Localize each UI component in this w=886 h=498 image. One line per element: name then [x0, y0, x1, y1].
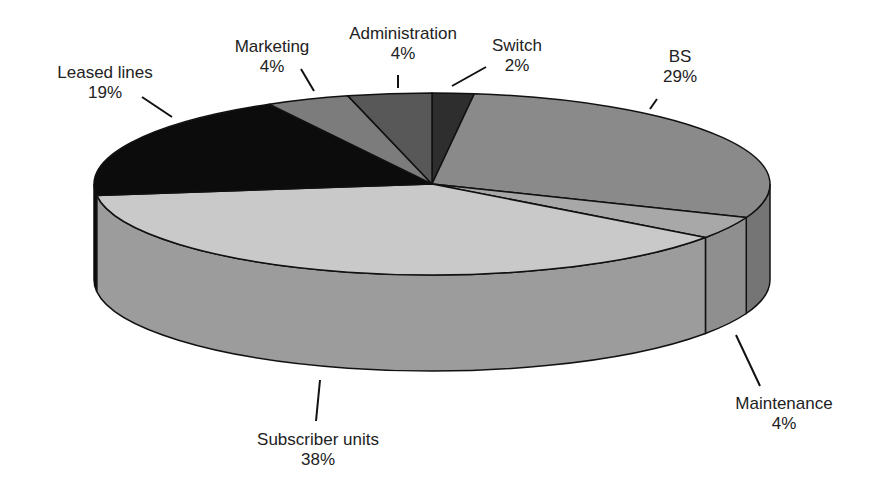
label-bs: BS 29%: [663, 47, 697, 87]
label-administration: Administration 4%: [349, 24, 457, 64]
leader-line-subscriber-units: [316, 380, 320, 421]
label-administration-pct: 4%: [349, 44, 457, 64]
label-bs-pct: 29%: [663, 67, 697, 87]
leader-line-switch: [452, 67, 486, 86]
label-subscriber-units-name: Subscriber units: [257, 430, 379, 450]
label-maintenance-name: Maintenance: [735, 394, 832, 414]
label-maintenance: Maintenance 4%: [735, 394, 832, 434]
label-maintenance-pct: 4%: [735, 414, 832, 434]
leader-line-bs: [650, 99, 657, 109]
label-marketing-name: Marketing: [235, 37, 310, 57]
label-switch-pct: 2%: [492, 56, 542, 76]
label-leased-lines-pct: 19%: [57, 83, 152, 103]
pie-top-slices: [94, 93, 770, 275]
label-subscriber-units: Subscriber units 38%: [257, 430, 379, 470]
label-switch: Switch 2%: [492, 36, 542, 76]
leader-line-maintenance: [736, 335, 760, 386]
label-switch-name: Switch: [492, 36, 542, 56]
label-administration-name: Administration: [349, 24, 457, 44]
label-leased-lines-name: Leased lines: [57, 63, 152, 83]
label-bs-name: BS: [663, 47, 697, 67]
label-marketing-pct: 4%: [235, 57, 310, 77]
label-subscriber-units-pct: 38%: [257, 450, 379, 470]
side-wall-leased-lines: [94, 184, 97, 291]
label-leased-lines: Leased lines 19%: [57, 63, 152, 103]
label-marketing: Marketing 4%: [235, 37, 310, 77]
